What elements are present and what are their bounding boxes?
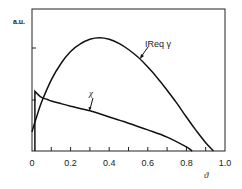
x-tick-label: 0.8: [180, 158, 193, 168]
ireq-gamma-label: IReq γ: [145, 39, 172, 49]
x-tick-label: 0: [29, 158, 34, 168]
x-axis-label: ϑ: [204, 170, 209, 180]
ireq-gamma-curve: [32, 38, 213, 151]
chi-label: χ: [88, 88, 94, 98]
y-unit-label: a.u.: [13, 18, 25, 25]
x-tick-label: 0.2: [64, 158, 77, 168]
x-tick-label: 0.4: [103, 158, 116, 168]
x-tick-label: 0.6: [142, 158, 155, 168]
x-ticks: [51, 147, 205, 151]
x-tick-labels: 00.20.40.60.81.0: [29, 158, 231, 168]
chart: a.u. 00.20.40.60.81.0 ϑ IReq γ χ: [0, 0, 242, 189]
ireq-gamma-arrowhead: [140, 54, 144, 59]
x-tick-label: 1.0: [219, 158, 232, 168]
chi-curve: [35, 91, 192, 151]
